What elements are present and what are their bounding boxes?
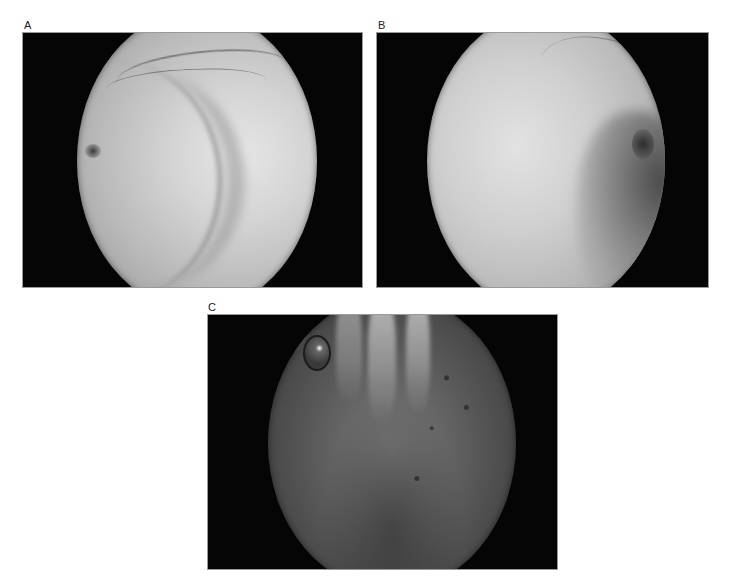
ostium-mark	[85, 144, 101, 158]
panel-label-c: C	[208, 302, 216, 313]
panel-label-a: A	[24, 20, 31, 31]
endoscopic-view-b	[427, 32, 665, 288]
endoscopic-view-a	[77, 32, 317, 288]
mucosal-spots	[268, 314, 516, 570]
panel-c-image	[207, 314, 558, 570]
endoscopic-view-c	[268, 314, 516, 570]
panel-label-b: B	[378, 20, 385, 31]
panel-b-image	[376, 32, 709, 288]
ostium-mark	[632, 129, 654, 159]
concentric-fold-shadow	[77, 71, 245, 288]
panel-a-image	[22, 32, 363, 288]
